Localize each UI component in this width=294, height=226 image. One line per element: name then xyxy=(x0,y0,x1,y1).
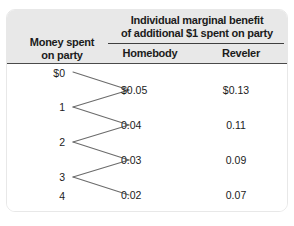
money-spent-column-header: Money spent on party xyxy=(15,36,109,61)
marginal-benefit-spanning-header: Individual marginal benefit of additiona… xyxy=(107,14,287,39)
money-level-1: 1 xyxy=(19,101,65,113)
spanning-header-line1: Individual marginal benefit xyxy=(131,14,264,26)
money-level-3: 3 xyxy=(19,171,65,183)
table-body: $0 1 2 3 4 $0.05 0.04 0.03 0.02 $0.13 0.… xyxy=(7,64,287,211)
homebody-column-header: Homebody xyxy=(107,47,193,60)
reveler-value-row-1: $0.13 xyxy=(197,84,275,96)
money-level-0: $0 xyxy=(19,67,65,79)
reveler-value-row-2: 0.11 xyxy=(197,119,275,131)
marginal-benefit-figure: Money spent on party Individual marginal… xyxy=(6,9,288,212)
reveler-column-header: Reveler xyxy=(199,47,283,60)
homebody-value-row-3: 0.03 xyxy=(121,154,193,166)
money-level-2: 2 xyxy=(19,136,65,148)
homebody-value-row-4: 0.02 xyxy=(121,189,193,201)
spanning-header-line2: of additional $1 spent on party xyxy=(121,27,273,39)
homebody-value-row-2: 0.04 xyxy=(121,119,193,131)
money-spent-header-line1: Money spent xyxy=(30,36,94,48)
spanning-header-rule xyxy=(108,43,284,44)
money-level-4: 4 xyxy=(19,190,65,202)
reveler-value-row-3: 0.09 xyxy=(197,154,275,166)
reveler-value-row-4: 0.07 xyxy=(197,189,275,201)
money-spent-header-line2: on party xyxy=(41,49,82,61)
table-header: Money spent on party Individual marginal… xyxy=(7,10,287,64)
homebody-value-row-1: $0.05 xyxy=(121,84,193,96)
